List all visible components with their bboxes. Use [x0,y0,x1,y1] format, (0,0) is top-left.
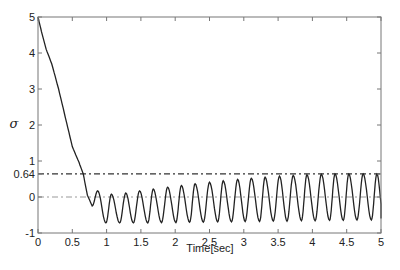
y-tick-label: 0.64 [14,168,35,180]
x-tick-label: 3.5 [270,236,285,248]
x-tick-label: 0.5 [65,236,80,248]
chart-background [0,0,400,270]
y-tick-label: -1 [25,227,35,239]
x-tick-label: 1.5 [133,236,148,248]
y-tick-label: 5 [29,11,35,23]
x-tick-label: 1 [104,236,110,248]
y-tick-label: 0 [29,191,35,203]
x-tick-label: 4 [309,236,315,248]
x-tick-label: 5 [378,236,384,248]
sigma-time-chart: 00.511.522.533.544.55 -100.6412345 Time[… [0,0,400,270]
x-tick-label: 0 [35,236,41,248]
x-tick-label: 3 [241,236,247,248]
y-axis-label: σ [10,116,20,131]
x-tick-label: 4.5 [339,236,354,248]
y-tick-label: 3 [29,83,35,95]
y-tick-label: 4 [29,47,35,59]
y-tick-label: 1 [29,155,35,167]
x-axis-label: Time[sec] [186,242,233,254]
y-tick-label: 2 [29,119,35,131]
x-tick-label: 2 [172,236,178,248]
